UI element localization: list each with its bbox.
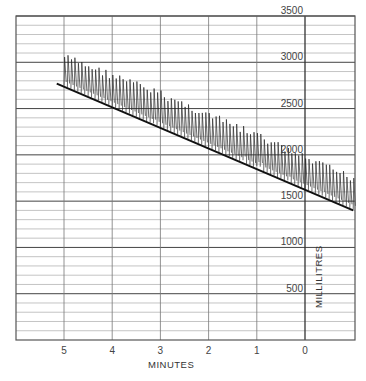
minor-grid bbox=[16, 25, 355, 330]
x-tick-label: 5 bbox=[61, 345, 67, 356]
x-axis-labels: 543210 bbox=[61, 345, 308, 356]
spirometer-trace bbox=[64, 55, 355, 209]
spirometer-chart: 500100015002000250030003500 543210 MINUT… bbox=[0, 0, 366, 381]
chart-frame bbox=[16, 16, 355, 340]
y-axis-title: MILLILITRES bbox=[313, 245, 324, 308]
x-axis-title: MINUTES bbox=[148, 359, 194, 370]
y-tick-label: 3500 bbox=[281, 5, 304, 16]
y-tick-label: 500 bbox=[286, 283, 303, 294]
y-tick-label: 2000 bbox=[281, 144, 304, 155]
major-grid bbox=[16, 16, 355, 340]
x-tick-label: 2 bbox=[206, 345, 212, 356]
y-tick-label: 1500 bbox=[281, 190, 304, 201]
x-tick-label: 4 bbox=[109, 345, 115, 356]
x-tick-label: 1 bbox=[254, 345, 260, 356]
y-tick-label: 2500 bbox=[281, 98, 304, 109]
y-tick-label: 3000 bbox=[281, 51, 304, 62]
x-tick-label: 0 bbox=[302, 345, 308, 356]
y-tick-label: 1000 bbox=[281, 236, 304, 247]
x-tick-label: 3 bbox=[158, 345, 164, 356]
y-axis-labels: 500100015002000250030003500 bbox=[281, 5, 304, 294]
baseline-line bbox=[57, 84, 353, 211]
